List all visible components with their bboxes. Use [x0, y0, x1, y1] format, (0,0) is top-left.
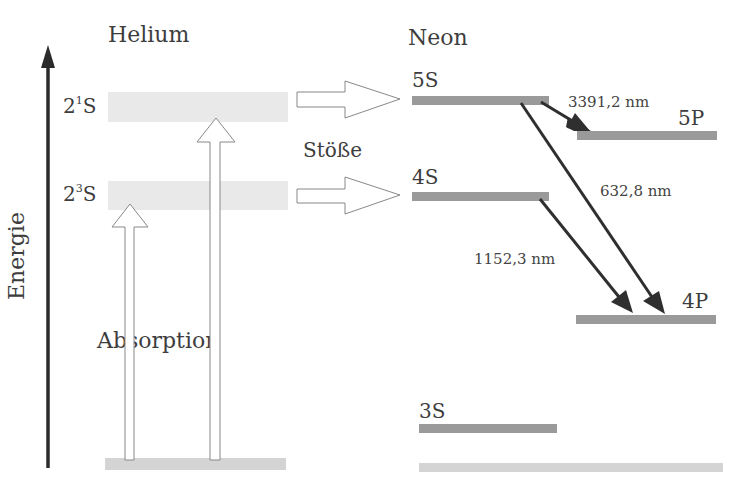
absorption-arrow-2-3S	[112, 204, 148, 460]
collision-arrow-upper	[297, 81, 400, 118]
transition-arrow-5S-4P	[521, 103, 665, 314]
arrows-layer	[0, 0, 745, 485]
absorption-arrow-2-1S	[197, 118, 235, 460]
transition-arrow-4S-4P	[540, 199, 633, 313]
energy-axis-arrow	[41, 45, 55, 468]
transition-arrow-5S-5P	[541, 102, 591, 131]
collision-arrow-lower	[297, 177, 400, 214]
